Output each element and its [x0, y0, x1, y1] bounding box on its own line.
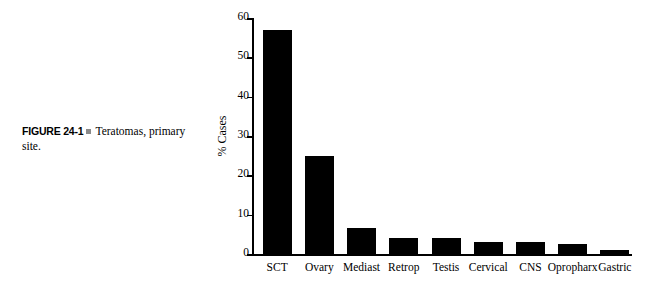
- bar: [558, 244, 587, 254]
- y-tick-label: 10: [238, 207, 250, 219]
- bar: [600, 250, 629, 254]
- y-tick-label: 60: [238, 10, 250, 22]
- bar: [516, 242, 545, 254]
- x-tick-label: Gastric: [598, 261, 631, 273]
- y-tick-label: 50: [238, 49, 250, 61]
- bar-chart: % Cases 0102030405060 SCTOvaryMediastRet…: [216, 10, 648, 284]
- x-axis-line: [252, 254, 632, 256]
- bar: [347, 228, 376, 254]
- x-tick-label: Opropharx: [548, 261, 598, 273]
- x-tick-label: Testis: [433, 261, 460, 273]
- y-tick-label: 20: [238, 167, 250, 179]
- bar: [432, 238, 461, 254]
- bar: [305, 156, 334, 254]
- bar: [389, 238, 418, 254]
- figure-caption: FIGURE 24-1Teratomas, primary site.: [22, 124, 202, 154]
- bar-series: [252, 18, 632, 254]
- figure-page: FIGURE 24-1Teratomas, primary site. % Ca…: [0, 0, 661, 294]
- plot-area: % Cases 0102030405060 SCTOvaryMediastRet…: [252, 18, 632, 254]
- x-tick-label: SCT: [267, 261, 288, 273]
- x-tick-label: Cervical: [469, 261, 508, 273]
- x-tick-label: Mediast: [343, 261, 380, 273]
- x-tick-label: Retrop: [388, 261, 419, 273]
- bar: [263, 30, 292, 254]
- y-tick-label: 30: [238, 128, 250, 140]
- x-tick-label: Ovary: [305, 261, 334, 273]
- y-tick-label: 0: [243, 246, 249, 258]
- figure-number: FIGURE 24-1: [22, 125, 83, 137]
- y-tick-label: 40: [238, 89, 250, 101]
- y-axis-title: % Cases: [215, 116, 230, 157]
- caption-square-icon: [86, 129, 91, 134]
- x-tick-label: CNS: [519, 261, 541, 273]
- bar: [474, 242, 503, 254]
